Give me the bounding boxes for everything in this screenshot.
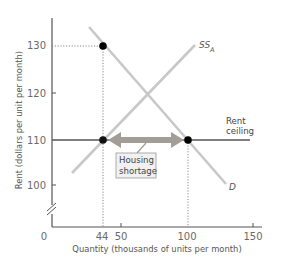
x-label-44: 44 (96, 231, 109, 242)
x-label-0: 0 (41, 231, 47, 242)
x-label-150: 150 (243, 231, 262, 242)
rent-ceiling-chart: 130 120 110 100 0 44 50 100 150 Quantity… (0, 0, 285, 262)
shortage-arrow (108, 132, 184, 148)
annotation-connector (137, 143, 146, 153)
x-label-50: 50 (115, 231, 128, 242)
rent-ceiling-label-line2: ceiling (226, 126, 254, 136)
point-44-110 (99, 136, 107, 144)
y-label-130: 130 (27, 40, 46, 51)
x-axis-title: Quantity (thousands of units per month) (72, 244, 241, 254)
y-label-120: 120 (27, 88, 46, 99)
y-label-110: 110 (27, 135, 46, 146)
demand-curve (89, 27, 226, 184)
y-label-100: 100 (27, 180, 46, 191)
shortage-label-line1: Housing (119, 155, 154, 165)
supply-label: SSA (199, 40, 215, 54)
y-axis-title: Rent (dollars per unit per month) (14, 51, 24, 189)
shortage-label-line2: shortage (119, 166, 157, 176)
point-100-110 (184, 136, 192, 144)
point-44-130 (99, 42, 107, 50)
rent-ceiling-label-line1: Rent (226, 116, 246, 126)
x-label-100: 100 (177, 231, 196, 242)
demand-label: D (229, 182, 236, 192)
